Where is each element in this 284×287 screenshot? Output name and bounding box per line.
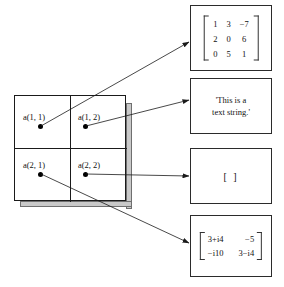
value-box-text-string: 'This is a text string.': [190, 78, 272, 134]
matrix-cell: −5: [227, 232, 258, 246]
cell-anchor-dot-1-2: [83, 124, 88, 129]
matrix-cell: −i10: [205, 246, 227, 260]
cell-array-shadow-right: [126, 103, 132, 209]
numeric-matrix-table: 1 3 −7 2 0 6 0 5 1: [209, 16, 254, 61]
numeric-matrix: 1 3 −7 2 0 6 0 5 1: [204, 16, 259, 61]
empty-matrix-value: [ ]: [191, 171, 271, 182]
matrix-cell: 3+i4: [205, 232, 227, 246]
matrix-cell: 6: [235, 31, 253, 46]
table-row: 1 3 −7: [209, 16, 254, 31]
cell-label-2-1: a(2, 1): [23, 160, 45, 170]
matrix-cell: 0: [222, 31, 235, 46]
text-string-value: 'This is a text string.': [191, 94, 271, 118]
table-row: −i10 3−i4: [205, 246, 257, 260]
grid-divider-horizontal: [15, 148, 127, 149]
table-row: 0 5 1: [209, 46, 254, 61]
cell-label-2-2: a(2, 2): [78, 160, 100, 170]
text-string-line-1: 'This is a: [191, 94, 271, 106]
matrix-cell: 2: [209, 31, 222, 46]
matrix-cell: 5: [222, 46, 235, 61]
diagram-canvas: a(1, 1) a(1, 2) a(2, 1) a(2, 2) 1 3 −7 2…: [0, 0, 284, 287]
matrix-cell: 1: [209, 16, 222, 31]
matrix-cell: 0: [209, 46, 222, 61]
value-box-numeric-matrix: 1 3 −7 2 0 6 0 5 1: [190, 5, 272, 71]
bracket-right-icon: [257, 232, 262, 260]
table-row: 3+i4 −5: [205, 232, 257, 246]
cell-anchor-dot-1-1: [38, 124, 43, 129]
text-string-line-2: text string.': [191, 106, 271, 118]
matrix-cell: 3−i4: [227, 246, 258, 260]
bracket-right-icon: [253, 16, 258, 61]
matrix-cell: −7: [235, 16, 253, 31]
complex-matrix-table: 3+i4 −5 −i10 3−i4: [205, 232, 257, 260]
matrix-cell: 1: [235, 46, 253, 61]
cell-anchor-dot-2-1: [38, 172, 43, 177]
value-box-empty-matrix: [ ]: [190, 148, 272, 204]
complex-matrix: 3+i4 −5 −i10 3−i4: [200, 232, 262, 260]
value-box-complex-matrix: 3+i4 −5 −i10 3−i4: [190, 215, 272, 277]
cell-label-1-2: a(1, 2): [78, 112, 100, 122]
table-row: 2 0 6: [209, 31, 254, 46]
cell-array-grid: a(1, 1) a(1, 2) a(2, 1) a(2, 2): [14, 95, 126, 201]
matrix-cell: 3: [222, 16, 235, 31]
cell-anchor-dot-2-2: [83, 172, 88, 177]
cell-array-outline: [14, 95, 126, 201]
cell-label-1-1: a(1, 1): [23, 112, 45, 122]
cell-array-shadow-bottom: [20, 201, 132, 207]
